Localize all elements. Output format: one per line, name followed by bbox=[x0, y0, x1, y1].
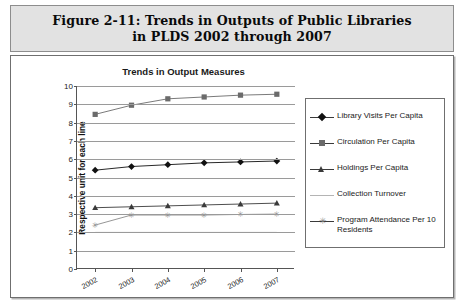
data-point bbox=[165, 96, 170, 101]
gridline bbox=[77, 232, 295, 233]
page-title: Figure 2-11: Trends in Outputs of Public… bbox=[52, 13, 411, 45]
legend-marker-square-icon bbox=[310, 138, 334, 148]
gridline bbox=[77, 141, 295, 142]
x-tick-mark bbox=[204, 268, 205, 272]
data-point: ✳ bbox=[92, 221, 99, 230]
data-point bbox=[128, 163, 135, 170]
x-tick-label: 2006 bbox=[225, 275, 244, 291]
series-line bbox=[95, 203, 277, 208]
y-tick-label: 0 bbox=[69, 265, 73, 274]
y-tick-mark bbox=[74, 232, 77, 233]
y-tick-label: 10 bbox=[64, 82, 73, 91]
data-point bbox=[93, 112, 98, 117]
y-tick-mark bbox=[74, 141, 77, 142]
series-line bbox=[95, 161, 277, 170]
legend-marker-none-icon bbox=[310, 190, 334, 200]
data-point bbox=[274, 92, 279, 97]
data-point bbox=[164, 161, 171, 168]
x-tick-mark bbox=[95, 268, 96, 272]
chart-frame: Trends in Output Measures Respective uni… bbox=[10, 55, 454, 298]
x-tick-mark bbox=[277, 268, 278, 272]
legend-label: Collection Turnover bbox=[337, 189, 406, 199]
figure-page: Figure 2-11: Trends in Outputs of Public… bbox=[0, 0, 464, 304]
data-point: ✳ bbox=[128, 211, 135, 220]
y-tick-mark bbox=[74, 159, 77, 160]
x-tick-label: 2002 bbox=[80, 275, 99, 291]
legend-label: Holdings Per Capita bbox=[337, 163, 408, 173]
y-tick-label: 4 bbox=[69, 191, 73, 200]
data-point: ✳ bbox=[164, 211, 171, 220]
y-tick-label: 1 bbox=[69, 246, 73, 255]
y-tick-mark bbox=[74, 251, 77, 252]
gridline bbox=[77, 214, 295, 215]
y-tick-label: 5 bbox=[69, 173, 73, 182]
figure-title-banner: Figure 2-11: Trends in Outputs of Public… bbox=[10, 5, 454, 52]
data-point bbox=[201, 159, 208, 166]
figure-title-line-1: Figure 2-11: Trends in Outputs of Public… bbox=[52, 13, 411, 28]
y-tick-mark bbox=[74, 269, 77, 270]
chart-legend: Library Visits Per CapitaCirculation Per… bbox=[305, 98, 445, 248]
x-tick-label: 2007 bbox=[262, 275, 281, 291]
y-tick-label: 7 bbox=[69, 136, 73, 145]
y-tick-label: 9 bbox=[69, 100, 73, 109]
legend-marker-triangle-icon bbox=[310, 164, 334, 174]
legend-item[interactable]: ✳Program Attendance Per 10 Residents bbox=[310, 215, 444, 235]
gridline bbox=[77, 86, 295, 87]
legend-label: Circulation Per Capita bbox=[337, 137, 415, 147]
y-tick-label: 3 bbox=[69, 210, 73, 219]
figure-title-line-2: in PLDS 2002 through 2007 bbox=[132, 29, 332, 44]
legend-item[interactable]: Holdings Per Capita bbox=[310, 163, 444, 174]
y-tick-mark bbox=[74, 178, 77, 179]
legend-item[interactable]: Collection Turnover bbox=[310, 189, 444, 200]
series-line bbox=[95, 214, 277, 225]
legend-marker-diamond-icon bbox=[310, 112, 334, 122]
gridline bbox=[77, 104, 295, 105]
legend-marker-star-icon: ✳ bbox=[310, 216, 334, 226]
y-tick-mark bbox=[74, 196, 77, 197]
gridline bbox=[77, 123, 295, 124]
gridline bbox=[77, 178, 295, 179]
legend-item[interactable]: Library Visits Per Capita bbox=[310, 111, 444, 122]
gridline bbox=[77, 159, 295, 160]
chart-title: Trends in Output Measures bbox=[71, 66, 296, 77]
y-tick-label: 6 bbox=[69, 155, 73, 164]
y-tick-mark bbox=[74, 214, 77, 215]
data-point bbox=[238, 93, 243, 98]
x-tick-mark bbox=[168, 268, 169, 272]
y-tick-label: 2 bbox=[69, 228, 73, 237]
x-tick-label: 2004 bbox=[153, 275, 172, 291]
legend-label: Library Visits Per Capita bbox=[337, 111, 423, 121]
plot-area: ✳✳✳✳✳✳ 012345678910200220032004200520062… bbox=[76, 86, 294, 269]
x-tick-mark bbox=[132, 268, 133, 272]
y-tick-label: 8 bbox=[69, 118, 73, 127]
gridline bbox=[77, 196, 295, 197]
data-point: ✳ bbox=[201, 211, 208, 220]
y-tick-mark bbox=[74, 104, 77, 105]
data-point bbox=[202, 94, 207, 99]
y-tick-mark bbox=[74, 123, 77, 124]
x-tick-label: 2005 bbox=[189, 275, 208, 291]
gridline bbox=[77, 251, 295, 252]
legend-item[interactable]: Circulation Per Capita bbox=[310, 137, 444, 148]
x-tick-mark bbox=[241, 268, 242, 272]
data-point bbox=[92, 167, 99, 174]
y-tick-mark bbox=[74, 86, 77, 87]
legend-label: Program Attendance Per 10 Residents bbox=[337, 215, 444, 235]
x-tick-label: 2003 bbox=[116, 275, 135, 291]
